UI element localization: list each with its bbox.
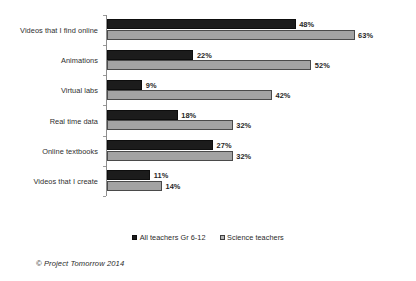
bar-group: Real time data18%32% xyxy=(0,105,416,135)
bar-value-label: 63% xyxy=(358,31,373,40)
bar-value-label: 27% xyxy=(217,141,232,150)
category-label: Online textbooks xyxy=(2,146,98,155)
bar-all-teachers[interactable] xyxy=(107,110,178,120)
bar-all-teachers[interactable] xyxy=(107,19,296,29)
bar-row: 48% xyxy=(107,19,326,29)
bar-science-teachers[interactable] xyxy=(107,60,311,70)
bar-all-teachers[interactable] xyxy=(107,80,142,90)
category-label: Videos that I find online xyxy=(2,26,98,35)
axis-tick xyxy=(103,15,106,16)
bar-row: 63% xyxy=(107,30,385,40)
bar-row: 52% xyxy=(107,60,341,70)
bar-group: Animations22%52% xyxy=(0,45,416,75)
legend-item-science-teachers[interactable]: Science teachers xyxy=(220,233,284,242)
category-label: Real time data xyxy=(2,116,98,125)
bar-science-teachers[interactable] xyxy=(107,90,272,100)
bar-value-label: 32% xyxy=(236,151,251,160)
axis-tick xyxy=(103,166,106,167)
bar-science-teachers[interactable] xyxy=(107,30,355,40)
bar-value-label: 32% xyxy=(236,121,251,130)
bar-row: 32% xyxy=(107,120,263,130)
axis-tick xyxy=(103,45,106,46)
bar-row: 27% xyxy=(107,140,243,150)
category-label: Videos that I create xyxy=(2,176,98,185)
copyright-credit: © Project Tomorrow 2014 xyxy=(36,259,124,268)
bar-value-label: 11% xyxy=(154,171,169,180)
bar-value-label: 9% xyxy=(146,80,157,89)
bar-row: 32% xyxy=(107,151,263,161)
bar-row: 9% xyxy=(107,80,172,90)
bar-value-label: 14% xyxy=(166,181,181,190)
bar-all-teachers[interactable] xyxy=(107,50,193,60)
bar-row: 42% xyxy=(107,90,302,100)
legend-label: All teachers Gr 6-12 xyxy=(140,233,206,242)
bar-group: Videos that I create11%14% xyxy=(0,166,416,196)
bar-value-label: 18% xyxy=(181,110,196,119)
bar-row: 14% xyxy=(107,181,192,191)
category-label: Animations xyxy=(2,56,98,65)
bar-row: 11% xyxy=(107,170,180,180)
bar-value-label: 52% xyxy=(315,61,330,70)
chart-legend: All teachers Gr 6-12 Science teachers xyxy=(0,233,416,242)
axis-tick xyxy=(103,196,106,197)
legend-item-all-teachers[interactable]: All teachers Gr 6-12 xyxy=(132,233,205,242)
bar-value-label: 42% xyxy=(276,91,291,100)
legend-swatch-gray-square-icon xyxy=(220,235,225,240)
bar-group: Virtual labs9%42% xyxy=(0,75,416,105)
legend-swatch-dark-square-icon xyxy=(132,235,137,240)
bar-row: 22% xyxy=(107,50,223,60)
bar-group: Videos that I find online48%63% xyxy=(0,15,416,45)
bar-value-label: 22% xyxy=(197,50,212,59)
category-label: Virtual labs xyxy=(2,86,98,95)
bar-science-teachers[interactable] xyxy=(107,181,162,191)
axis-tick xyxy=(103,136,106,137)
axis-tick xyxy=(103,75,106,76)
plot-area: Videos that I find online48%63%Animation… xyxy=(0,0,416,200)
bar-science-teachers[interactable] xyxy=(107,151,233,161)
legend-label: Science teachers xyxy=(227,233,284,242)
axis-tick xyxy=(103,105,106,106)
bar-value-label: 48% xyxy=(299,20,314,29)
bar-all-teachers[interactable] xyxy=(107,140,213,150)
chart-figure: Videos that I find online48%63%Animation… xyxy=(0,0,416,281)
bar-group: Online textbooks27%32% xyxy=(0,136,416,166)
bar-science-teachers[interactable] xyxy=(107,120,233,130)
bar-all-teachers[interactable] xyxy=(107,170,150,180)
bar-row: 18% xyxy=(107,110,208,120)
